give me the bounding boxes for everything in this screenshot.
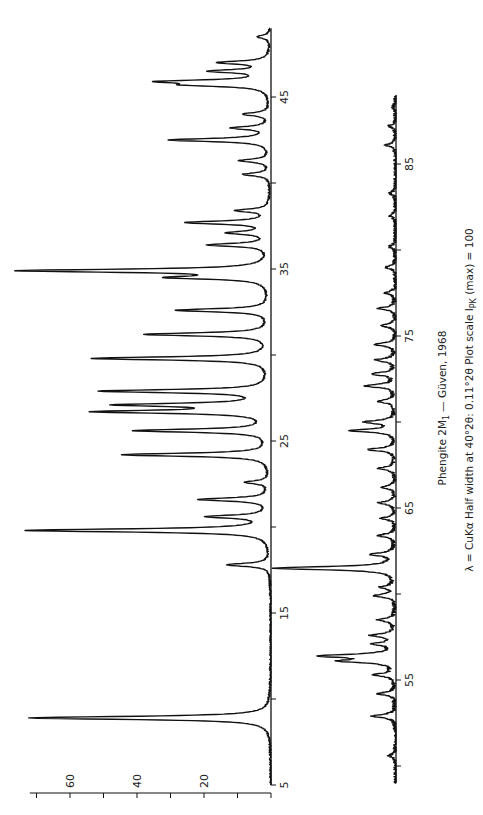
x-tick-label: 5 — [278, 782, 291, 789]
xrd-pattern-figure: 515253545204060 55657585 Phengite 2M1— G… — [0, 0, 483, 815]
x-tick-label: 45 — [278, 90, 291, 104]
figure-subtitle: λ = CuKα Half width at 40°2θ: 0.11°2θ Pl… — [463, 228, 478, 572]
figure-title: Phengite 2M1— Güven, 1968 — [436, 331, 451, 486]
bottom-plot-axis: 55657585 — [396, 95, 416, 783]
figure-captions: Phengite 2M1— Güven, 1968 λ = CuKα Half … — [436, 228, 478, 572]
x-tick-label: 75 — [403, 329, 416, 343]
x-tick-label: 15 — [278, 606, 291, 620]
x-tick-label: 25 — [278, 434, 291, 448]
y-tick-label: 60 — [64, 774, 77, 788]
y-tick-label: 20 — [198, 774, 211, 788]
y-tick-label: 40 — [131, 774, 144, 788]
bottom-plot-trace — [273, 95, 396, 783]
x-tick-label: 85 — [403, 157, 416, 171]
top-plot-trace — [15, 28, 271, 785]
x-tick-label: 55 — [403, 673, 416, 687]
x-tick-label: 65 — [403, 501, 416, 515]
x-tick-label: 35 — [278, 262, 291, 276]
